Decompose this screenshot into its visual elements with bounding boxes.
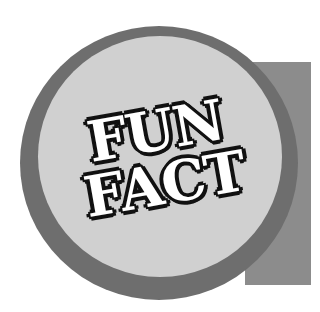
badge-title: FUN FACT (71, 89, 249, 224)
badge-disc: FUN FACT (38, 36, 282, 277)
